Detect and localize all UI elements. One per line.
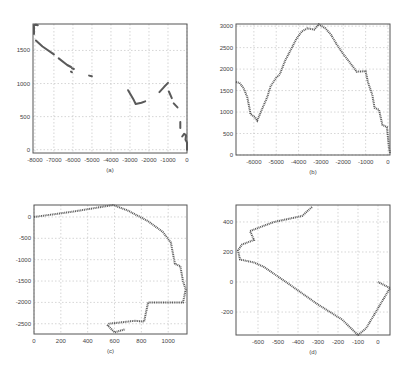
- y-tick-label: 1000: [220, 109, 234, 115]
- x-tick-label: 1000: [162, 338, 176, 344]
- data-segment: [89, 76, 92, 77]
- x-tick-label: 200: [56, 338, 67, 344]
- y-tick-label: 1500: [220, 88, 234, 94]
- x-tick-label: -100: [352, 339, 365, 345]
- y-tick-label: 2000: [220, 66, 234, 72]
- data-segment: [128, 90, 145, 104]
- x-tick-label: -4000: [291, 159, 307, 165]
- x-tick-label: -5000: [269, 159, 285, 165]
- y-tick-label: 0: [230, 279, 234, 285]
- subplot-caption: (d): [309, 349, 316, 355]
- y-tick-label: 1500: [17, 47, 31, 53]
- data-series: [238, 207, 390, 335]
- x-tick-label: 0: [386, 159, 390, 165]
- subplot-c: 020040060080010000-500-1000-1500-2000-25…: [16, 205, 187, 354]
- data-segment: [159, 83, 168, 92]
- x-tick-label: 800: [136, 338, 147, 344]
- axes-frame: [34, 205, 187, 334]
- subplot-caption: (b): [309, 169, 316, 175]
- x-tick-label: -2000: [141, 157, 157, 163]
- data-segment: [182, 134, 187, 150]
- data-segment: [72, 68, 74, 69]
- y-tick-label: -2500: [16, 321, 32, 327]
- x-tick-label: 600: [110, 338, 121, 344]
- x-tick-label: -3000: [313, 159, 329, 165]
- data-series: [34, 205, 186, 332]
- x-tick-label: -2000: [336, 159, 352, 165]
- x-tick-label: -400: [292, 339, 305, 345]
- y-tick-label: -200: [221, 309, 234, 315]
- x-tick-label: 0: [185, 157, 189, 163]
- x-tick-label: -600: [252, 339, 265, 345]
- data-segment: [71, 72, 72, 73]
- y-tick-label: -1500: [16, 278, 32, 284]
- figure-2x2-subplots: -8000-7000-6000-5000-4000-3000-2000-1000…: [0, 0, 414, 375]
- y-tick-label: 2500: [220, 45, 234, 51]
- data-segment: [59, 58, 71, 67]
- y-tick-label: 0: [28, 214, 32, 220]
- subplot-d: -600-500-400-300-200-1000-2000200400(d): [221, 205, 390, 355]
- y-tick-label: -500: [19, 235, 32, 241]
- subplot-a: -8000-7000-6000-5000-4000-3000-2000-1000…: [17, 24, 190, 173]
- subplot-b: -6000-5000-4000-3000-2000-10000050010001…: [220, 23, 391, 175]
- x-tick-label: 0: [376, 339, 380, 345]
- y-tick-label: 1000: [17, 81, 31, 87]
- x-tick-label: -200: [332, 339, 345, 345]
- axes-frame: [236, 24, 390, 155]
- y-tick-label: 500: [20, 114, 31, 120]
- x-tick-label: -6000: [246, 159, 262, 165]
- x-tick-label: -6000: [65, 157, 81, 163]
- y-tick-label: -2000: [16, 299, 32, 305]
- x-tick-label: -5000: [84, 157, 100, 163]
- x-tick-label: -8000: [27, 157, 43, 163]
- data-segment: [34, 25, 38, 34]
- x-tick-label: -7000: [46, 157, 62, 163]
- data-segment: [36, 41, 54, 55]
- x-tick-label: -500: [272, 339, 285, 345]
- y-tick-label: 500: [223, 131, 234, 137]
- x-tick-label: -1000: [160, 157, 176, 163]
- y-tick-label: 0: [27, 147, 31, 153]
- y-tick-label: -1000: [16, 257, 32, 263]
- y-tick-label: 200: [223, 249, 234, 255]
- x-tick-label: 400: [83, 338, 94, 344]
- x-tick-label: 0: [32, 338, 36, 344]
- x-tick-label: -1000: [358, 159, 374, 165]
- subplot-caption: (a): [106, 167, 113, 173]
- x-tick-label: -4000: [103, 157, 119, 163]
- y-tick-label: 400: [223, 219, 234, 225]
- y-tick-label: 3000: [220, 23, 234, 29]
- subplot-caption: (c): [107, 348, 114, 354]
- y-tick-label: 0: [230, 152, 234, 158]
- axes-frame: [236, 205, 390, 335]
- x-tick-label: -300: [312, 339, 325, 345]
- x-tick-label: -3000: [122, 157, 138, 163]
- data-segment: [174, 103, 178, 107]
- data-segment: [169, 92, 172, 99]
